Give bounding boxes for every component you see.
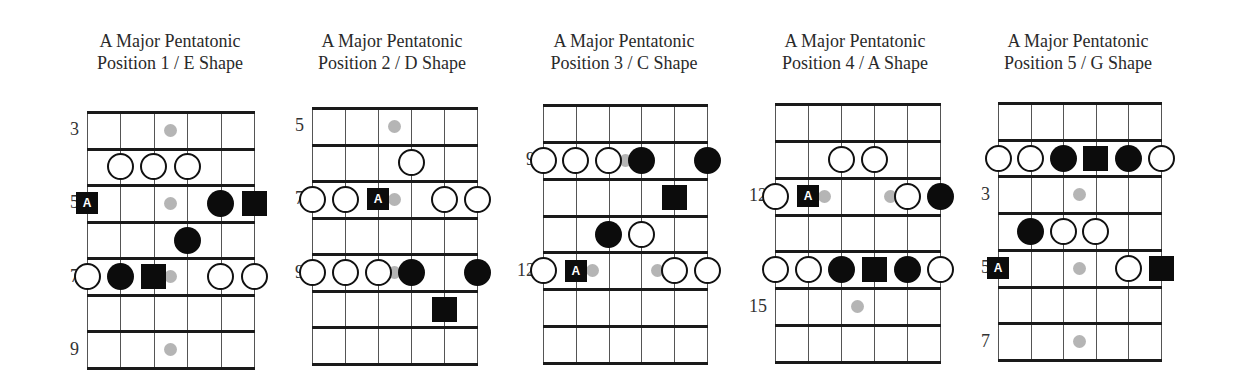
fret-line xyxy=(775,287,941,290)
fret-inlay-dot xyxy=(1073,262,1086,275)
root-note-a-square: A xyxy=(367,188,389,210)
fret-line xyxy=(775,361,941,364)
scale-note-open-circle xyxy=(207,263,234,290)
chord-tone-filled-circle xyxy=(694,147,721,174)
scale-note-open-circle xyxy=(74,263,101,290)
scale-note-open-circle xyxy=(1115,255,1142,282)
fret-line xyxy=(87,367,255,370)
chord-root-square xyxy=(242,191,267,216)
fret-number-label: 3 xyxy=(53,119,79,140)
scale-note-open-circle xyxy=(661,257,688,284)
fret-line xyxy=(543,215,708,218)
chord-tone-filled-circle xyxy=(1115,145,1142,172)
fret-line xyxy=(87,184,255,187)
fret-line xyxy=(775,324,941,327)
fret-inlay-dot xyxy=(851,300,864,313)
chord-tone-filled-circle xyxy=(927,183,954,210)
fret-inlay-dot xyxy=(1073,188,1086,201)
title-line-2: Position 4 / A Shape xyxy=(745,52,965,74)
scale-note-open-circle xyxy=(299,186,326,213)
fret-inlay-dot xyxy=(388,193,401,206)
fret-line xyxy=(543,288,708,291)
fret-line xyxy=(998,249,1162,252)
scale-note-open-circle xyxy=(241,263,268,290)
fret-line xyxy=(998,212,1162,215)
diagram-title: A Major PentatonicPosition 3 / C Shape xyxy=(514,30,734,74)
fret-line xyxy=(87,148,255,151)
scale-note-open-circle xyxy=(694,257,721,284)
chord-root-square xyxy=(141,264,166,289)
root-note-a-square: A xyxy=(797,185,819,207)
fret-line xyxy=(312,290,478,293)
fret-line xyxy=(312,363,478,366)
fret-line xyxy=(775,250,941,253)
scale-note-open-circle xyxy=(365,259,392,286)
root-note-a-square: A xyxy=(76,192,98,214)
fret-number-label: 3 xyxy=(964,184,990,205)
root-note-a-square: A xyxy=(987,257,1009,279)
title-line-1: A Major Pentatonic xyxy=(282,30,502,52)
scale-note-open-circle xyxy=(762,256,789,283)
chord-tone-filled-circle xyxy=(628,147,655,174)
title-line-1: A Major Pentatonic xyxy=(514,30,734,52)
fret-line xyxy=(775,140,941,143)
scale-note-open-circle xyxy=(530,147,557,174)
fret-line xyxy=(312,107,478,110)
fret-number-label: 9 xyxy=(53,339,79,360)
scale-note-open-circle xyxy=(299,259,326,286)
title-line-2: Position 1 / E Shape xyxy=(60,52,280,74)
fret-line xyxy=(775,214,941,217)
fret-line xyxy=(87,294,255,297)
fret-inlay-dot xyxy=(1073,335,1086,348)
chord-tone-filled-circle xyxy=(464,259,491,286)
scale-note-open-circle xyxy=(140,153,167,180)
scale-note-open-circle xyxy=(985,145,1012,172)
scale-note-open-circle xyxy=(107,153,134,180)
root-note-a-square: A xyxy=(565,260,587,282)
fret-inlay-dot xyxy=(164,343,177,356)
fret-line xyxy=(543,362,708,365)
fret-line xyxy=(998,359,1162,362)
title-line-2: Position 5 / G Shape xyxy=(968,52,1188,74)
fret-line xyxy=(775,177,941,180)
diagram-title: A Major PentatonicPosition 2 / D Shape xyxy=(282,30,502,74)
title-line-2: Position 2 / D Shape xyxy=(282,52,502,74)
fret-number-label: 15 xyxy=(741,296,767,317)
chord-tone-filled-circle xyxy=(1050,145,1077,172)
diagram-title: A Major PentatonicPosition 1 / E Shape xyxy=(60,30,280,74)
scale-note-open-circle xyxy=(1050,218,1077,245)
fret-line xyxy=(312,326,478,329)
chord-tone-filled-circle xyxy=(398,259,425,286)
fret-inlay-dot xyxy=(818,190,831,203)
fret-line xyxy=(543,104,708,107)
title-line-1: A Major Pentatonic xyxy=(745,30,965,52)
chord-tone-filled-circle xyxy=(174,227,201,254)
fret-line xyxy=(998,175,1162,178)
chord-root-square xyxy=(1083,146,1108,171)
fret-line xyxy=(312,253,478,256)
fret-inlay-dot xyxy=(388,120,401,133)
fret-inlay-dot xyxy=(586,264,599,277)
fret-line xyxy=(775,103,941,106)
scale-note-open-circle xyxy=(628,221,655,248)
fret-line xyxy=(543,178,708,181)
diagram-title: A Major PentatonicPosition 5 / G Shape xyxy=(968,30,1188,74)
chord-tone-filled-circle xyxy=(207,190,234,217)
fret-line xyxy=(998,286,1162,289)
scale-note-open-circle xyxy=(1017,145,1044,172)
title-line-1: A Major Pentatonic xyxy=(60,30,280,52)
fret-line xyxy=(87,221,255,224)
scale-note-open-circle xyxy=(332,259,359,286)
fret-line xyxy=(312,217,478,220)
chord-tone-filled-circle xyxy=(894,256,921,283)
fret-line xyxy=(543,325,708,328)
scale-note-open-circle xyxy=(795,256,822,283)
title-line-2: Position 3 / C Shape xyxy=(514,52,734,74)
fret-line xyxy=(87,257,255,260)
scale-note-open-circle xyxy=(174,153,201,180)
fret-line xyxy=(998,322,1162,325)
scale-note-open-circle xyxy=(595,147,622,174)
chord-root-square xyxy=(862,257,887,282)
chord-tone-filled-circle xyxy=(1017,218,1044,245)
scale-note-open-circle xyxy=(1082,218,1109,245)
